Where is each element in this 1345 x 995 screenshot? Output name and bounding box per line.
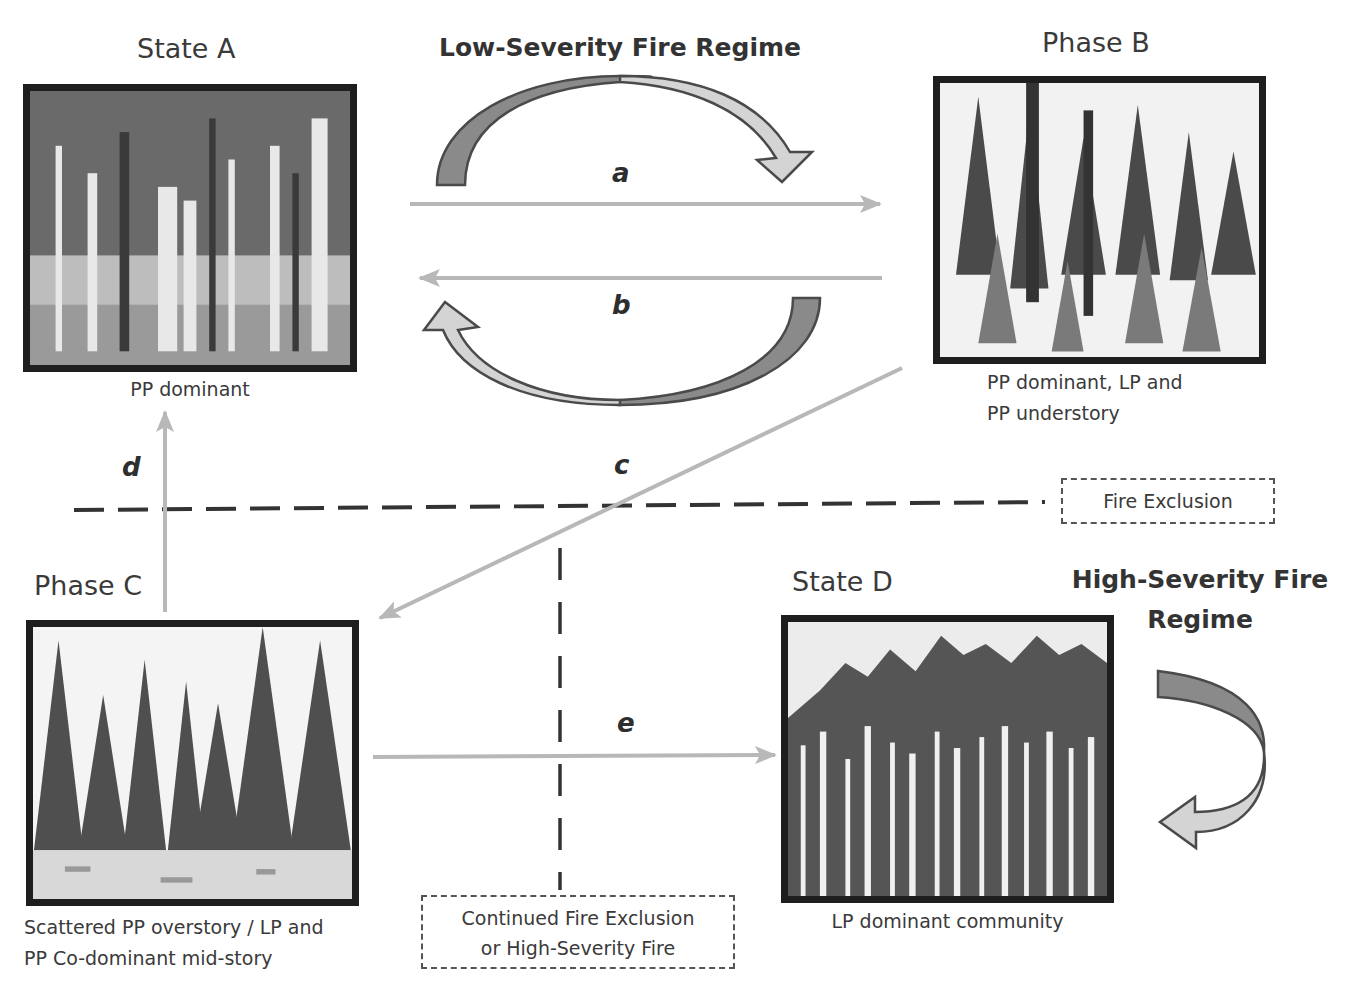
phase-c-photo: [26, 620, 359, 906]
high-severity-cycle-arrow: [1158, 671, 1265, 848]
transition-a-label: a: [612, 158, 630, 188]
state-d-title: State D: [792, 566, 893, 597]
phase-c-title: Phase C: [34, 570, 142, 601]
state-d-caption: LP dominant community: [781, 906, 1114, 937]
state-a-caption-line-1: PP dominant: [23, 374, 357, 405]
phase-c-caption-line-2: PP Co-dominant mid-story: [24, 943, 384, 974]
forest-image-icon: [940, 83, 1259, 357]
continued-exclusion-box: Continued Fire Exclusion or High-Severit…: [421, 895, 735, 969]
forest-image-icon: [788, 622, 1107, 896]
phase-b-caption-line-2: PP understory: [987, 398, 1267, 429]
phase-c-caption: Scattered PP overstory / LP and PP Co-do…: [24, 912, 384, 974]
state-d-caption-line-1: LP dominant community: [781, 906, 1114, 937]
transition-e-arrow: [373, 755, 775, 757]
phase-b-caption: PP dominant, LP and PP understory: [987, 367, 1267, 429]
forest-image-icon: [30, 91, 350, 365]
phase-b-title: Phase B: [1042, 27, 1150, 58]
transition-b-label: b: [612, 290, 631, 320]
state-a-title: State A: [137, 33, 236, 64]
phase-b-caption-line-1: PP dominant, LP and: [987, 367, 1267, 398]
transition-e-label: e: [617, 708, 635, 738]
state-a-caption: PP dominant: [23, 374, 357, 405]
high-severity-regime-line-1: High-Severity Fire: [1060, 560, 1340, 600]
state-d-photo: [781, 615, 1114, 903]
continued-exclusion-line-2: or High-Severity Fire: [423, 933, 733, 963]
low-severity-regime-title: Low-Severity Fire Regime: [420, 28, 820, 68]
fire-exclusion-label: Fire Exclusion: [1103, 490, 1232, 512]
state-a-photo: [23, 84, 357, 372]
phase-c-caption-line-1: Scattered PP overstory / LP and: [24, 912, 384, 943]
fire-exclusion-box: Fire Exclusion: [1061, 478, 1275, 524]
transition-d-label: d: [122, 452, 141, 482]
continued-exclusion-line-1: Continued Fire Exclusion: [423, 903, 733, 933]
transition-c-label: c: [614, 450, 629, 480]
forest-image-icon: [33, 627, 352, 899]
fire-exclusion-threshold-line: [74, 502, 1045, 510]
phase-b-photo: [933, 76, 1266, 364]
